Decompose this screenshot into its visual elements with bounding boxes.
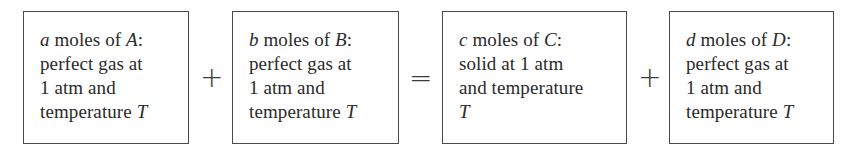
temperature-text: temperature	[686, 101, 783, 122]
species-symbol: D	[772, 29, 786, 50]
condition-line: 1 atm and	[249, 76, 398, 100]
title-text: moles of	[259, 29, 335, 50]
coefficient: c	[459, 29, 468, 50]
condition-line: 1 atm and	[686, 76, 833, 100]
state-line: solid at 1 atm	[459, 52, 626, 76]
plus-operator: +	[200, 63, 223, 93]
state-line: perfect gas at	[249, 52, 398, 76]
colon: :	[786, 29, 791, 50]
plus-operator: +	[638, 63, 661, 93]
temperature-variable: T	[459, 101, 470, 122]
colon: :	[557, 29, 562, 50]
temperature-line: T	[459, 100, 626, 124]
condition-line: 1 atm and	[40, 76, 188, 100]
condition-line: and temperature	[459, 76, 626, 100]
temperature-text: temperature	[40, 101, 137, 122]
coefficient: a	[40, 29, 50, 50]
coefficient: b	[249, 29, 259, 50]
state-line: perfect gas at	[40, 52, 188, 76]
box-title: d moles of D:	[686, 28, 833, 52]
temperature-line: temperature T	[249, 100, 398, 124]
title-text: moles of	[696, 29, 772, 50]
reactant-box-a: a moles of A: perfect gas at 1 atm and t…	[23, 11, 189, 144]
temperature-variable: T	[346, 101, 357, 122]
product-box-c: c moles of C: solid at 1 atm and tempera…	[442, 11, 627, 144]
species-symbol: B	[335, 29, 347, 50]
species-symbol: A	[126, 29, 138, 50]
coefficient: d	[686, 29, 696, 50]
box-title: a moles of A:	[40, 28, 188, 52]
title-text: moles of	[50, 29, 126, 50]
temperature-variable: T	[783, 101, 794, 122]
temperature-line: temperature T	[686, 100, 833, 124]
box-title: c moles of C:	[459, 28, 626, 52]
temperature-variable: T	[137, 101, 148, 122]
species-symbol: C	[544, 29, 557, 50]
colon: :	[138, 29, 143, 50]
title-text: moles of	[468, 29, 544, 50]
product-box-d: d moles of D: perfect gas at 1 atm and t…	[669, 11, 834, 144]
temperature-line: temperature T	[40, 100, 188, 124]
equals-operator: =	[409, 63, 432, 93]
colon: :	[347, 29, 352, 50]
box-title: b moles of B:	[249, 28, 398, 52]
temperature-text: temperature	[249, 101, 346, 122]
reactant-box-b: b moles of B: perfect gas at 1 atm and t…	[232, 11, 399, 144]
state-line: perfect gas at	[686, 52, 833, 76]
